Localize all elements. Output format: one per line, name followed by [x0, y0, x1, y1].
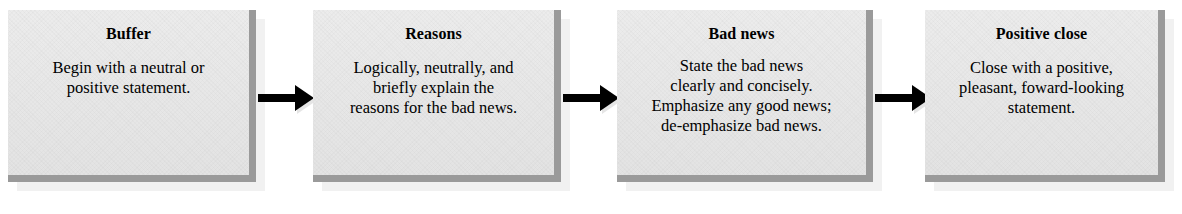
- step-body-line: clearly and concisely.: [627, 76, 856, 96]
- step-body-line: briefly explain the: [323, 78, 544, 98]
- step-body-line: reasons for the bad news.: [323, 98, 544, 118]
- arrow-bad-news-to-positive-close: [875, 85, 931, 111]
- step-title-reasons: Reasons: [321, 24, 546, 44]
- step-body-reasons: Logically, neutrally, and briefly explai…: [321, 58, 546, 118]
- step-body-buffer: Begin with a neutral or positive stateme…: [16, 58, 241, 98]
- step-body-line: Close with a positive,: [935, 58, 1148, 78]
- step-body-line: Begin with a neutral or: [18, 58, 239, 78]
- process-step-buffer: Buffer Begin with a neutral or positive …: [8, 10, 256, 182]
- step-body-line: Logically, neutrally, and: [323, 58, 544, 78]
- arrow-head-icon: [295, 85, 314, 111]
- process-step-positive-close: Positive close Close with a positive, pl…: [925, 10, 1165, 182]
- process-step-reasons: Reasons Logically, neutrally, and briefl…: [313, 10, 561, 182]
- step-title-buffer: Buffer: [16, 24, 241, 44]
- process-flow-diagram: Buffer Begin with a neutral or positive …: [0, 0, 1182, 214]
- step-body-line: State the bad news: [627, 56, 856, 76]
- arrow-reasons-to-bad-news: [563, 85, 619, 111]
- step-body-line: de-emphasize bad news.: [627, 116, 856, 136]
- step-body-line: positive statement.: [18, 78, 239, 98]
- arrow-shaft: [258, 94, 298, 102]
- process-step-bad-news: Bad news State the bad news clearly and …: [617, 10, 873, 182]
- arrow-shaft: [563, 94, 603, 102]
- arrow-buffer-to-reasons: [258, 85, 314, 111]
- step-body-line: pleasant, foward-looking: [935, 78, 1148, 98]
- step-title-bad-news: Bad news: [625, 24, 858, 44]
- step-body-bad-news: State the bad news clearly and concisely…: [625, 56, 858, 136]
- step-title-positive-close: Positive close: [933, 24, 1150, 44]
- arrow-shaft: [875, 94, 915, 102]
- step-body-positive-close: Close with a positive, pleasant, foward-…: [933, 58, 1150, 118]
- step-body-line: Emphasize any good news;: [627, 96, 856, 116]
- step-body-line: statement.: [935, 98, 1148, 118]
